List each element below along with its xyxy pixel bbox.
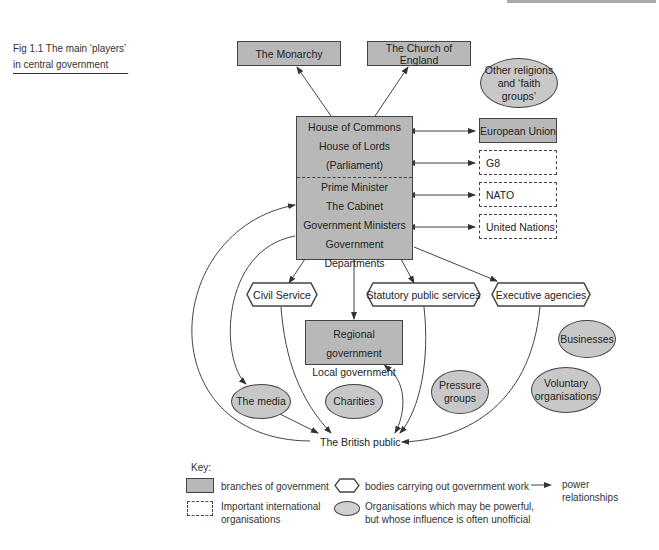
executive-agencies-hexagon: Executive agencies <box>491 282 591 307</box>
united-nations-box: United Nations <box>479 214 557 239</box>
european-union-box: European Union <box>479 118 557 143</box>
local-government: Local government <box>306 363 402 382</box>
key-ellipse-swatch-icon <box>334 501 360 516</box>
pressure-line2: groups <box>439 392 481 405</box>
civil-service-label: Civil Service <box>253 289 311 301</box>
key-branches-swatch-icon <box>186 478 214 493</box>
businesses-label: Businesses <box>560 333 614 346</box>
key-international-label: Important international organisations <box>221 500 321 526</box>
voluntary-line2: organisations <box>535 390 597 403</box>
pressure-groups-ellipse: Pressure groups <box>431 370 489 414</box>
other-religions-line1: Other religions <box>481 64 557 77</box>
exec-agencies-label: Executive agencies <box>496 289 586 301</box>
monarchy-label: The Monarchy <box>255 48 322 60</box>
key-international-line2: organisations <box>221 513 321 526</box>
businesses-ellipse: Businesses <box>558 320 616 358</box>
media-label: The media <box>236 395 286 408</box>
prime-minister: Prime Minister <box>297 178 412 197</box>
other-religions-ellipse: Other religions and ‘faith groups’ <box>480 58 558 108</box>
the-cabinet: The Cabinet <box>297 197 412 216</box>
g8-label: G8 <box>486 157 500 169</box>
executive-section: Prime Minister The Cabinet Government Mi… <box>297 177 412 273</box>
key-power-line2: relationships <box>562 491 618 504</box>
central-government-box: House of Commons House of Lords (Parliam… <box>296 116 413 260</box>
government-departments: Government Departments <box>297 235 412 273</box>
civil-service-hexagon: Civil Service <box>246 282 318 307</box>
government-ministers: Government Ministers <box>297 216 412 235</box>
monarchy-box: The Monarchy <box>237 41 341 66</box>
g8-box: G8 <box>479 150 557 175</box>
key-bodies-label: bodies carrying out government work <box>365 480 529 493</box>
key-arrow-icon <box>531 481 553 489</box>
church-of-england-box: The Church of England <box>367 41 471 66</box>
voluntary-organisations-ellipse: Voluntary organisations <box>531 367 601 413</box>
media-ellipse: The media <box>231 384 291 419</box>
parliament-section: House of Commons House of Lords (Parliam… <box>297 117 412 175</box>
charities-ellipse: Charities <box>325 384 383 419</box>
statutory-label: Statutory public services <box>367 289 481 301</box>
statutory-public-services-hexagon: Statutory public services <box>366 282 481 307</box>
other-religions-line2: and ‘faith groups’ <box>481 77 557 103</box>
pressure-line1: Pressure <box>439 379 481 392</box>
house-of-commons: House of Commons <box>297 118 412 137</box>
regional-government: Regional government <box>306 325 402 363</box>
nato-box: NATO <box>479 182 557 207</box>
key-organisations-line2: but whose influence is often unofficial <box>365 513 534 526</box>
key-international-swatch-icon <box>187 501 213 516</box>
key-hexagon-swatch-icon <box>334 478 360 493</box>
key-organisations-label: Organisations which may be powerful, but… <box>365 500 534 526</box>
parliament-label: (Parliament) <box>297 156 412 175</box>
nato-label: NATO <box>486 189 514 201</box>
european-union-label: European Union <box>480 125 556 137</box>
key-title: Key: <box>191 461 211 474</box>
key-power-line1: power <box>562 478 618 491</box>
key-power-label: power relationships <box>562 478 618 504</box>
church-label: The Church of England <box>368 42 470 66</box>
house-of-lords: House of Lords <box>297 137 412 156</box>
british-public-label: The British public <box>320 436 401 448</box>
regional-local-government-box: Regional government Local government <box>305 320 403 365</box>
key-international-line1: Important international <box>221 500 321 513</box>
voluntary-line1: Voluntary <box>535 377 597 390</box>
key-organisations-line1: Organisations which may be powerful, <box>365 500 534 513</box>
united-nations-label: United Nations <box>486 221 555 233</box>
key-branches-label: branches of government <box>221 480 329 493</box>
charities-label: Charities <box>333 395 374 408</box>
power-relationship-arrows <box>0 0 659 550</box>
